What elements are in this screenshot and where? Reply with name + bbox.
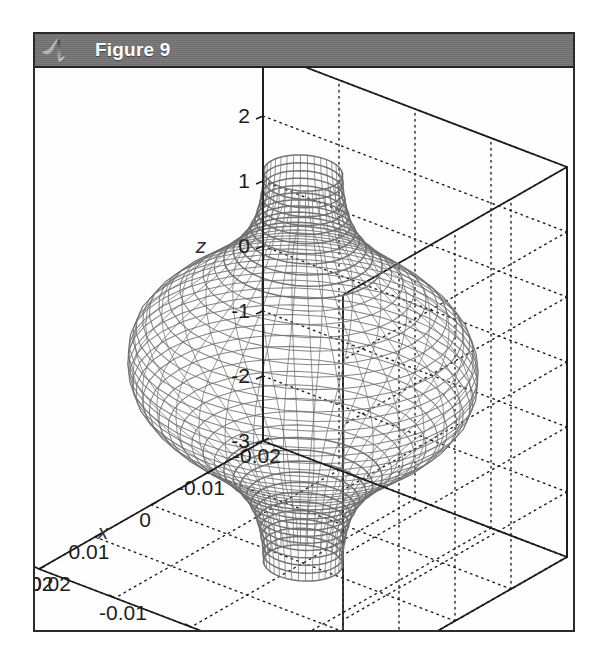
- matlab-membrane-icon: [41, 37, 71, 63]
- z-tick-label: -1: [231, 299, 250, 322]
- window-title: Figure 9: [95, 39, 171, 61]
- x-tick-label: -0.02: [233, 444, 281, 467]
- surface-mesh: [128, 155, 478, 581]
- x-tick-label: 0: [139, 508, 151, 531]
- z-tick-label: 2: [238, 104, 250, 127]
- y-tick-label: -0.01: [99, 601, 147, 624]
- y-tick-label: -0.02: [35, 572, 71, 595]
- x-tick-label: -0.01: [177, 476, 225, 499]
- z-axis-label: z: [195, 234, 207, 257]
- z-tick-label: 1: [238, 169, 250, 192]
- x-tick-label: 0.01: [69, 540, 110, 563]
- surface-plot: 3210-1-2-3-0.02-0.0100.010.02-0.02-0.010…: [35, 68, 573, 630]
- x-axis-label: x: [97, 520, 110, 543]
- z-tick-label: 0: [238, 234, 250, 257]
- figure-window: Figure 9 3210-1-2-3-0.02-0.0100.010.02-0…: [33, 32, 575, 632]
- window-titlebar[interactable]: Figure 9: [35, 34, 573, 68]
- figure-canvas: 3210-1-2-3-0.02-0.0100.010.02-0.02-0.010…: [35, 68, 573, 630]
- z-tick-label: -2: [231, 364, 250, 387]
